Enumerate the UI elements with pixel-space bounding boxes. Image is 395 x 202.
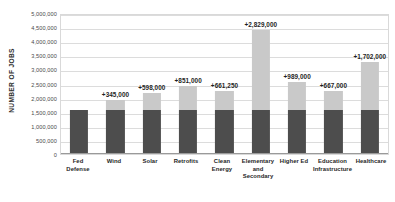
bar-slot: +667,000 (315, 15, 351, 154)
y-axis-tick-labels: 5,000,0004,500,0004,000,0003,500,0003,00… (22, 14, 60, 155)
bar-value-label: +598,000 (138, 84, 165, 91)
x-axis-category-label: Wind (96, 158, 132, 202)
bar[interactable] (252, 30, 270, 154)
x-axis-category-label: Elementary and Secondary (240, 158, 276, 202)
bar-slot: +1,702,000 (352, 15, 388, 154)
bar[interactable] (70, 110, 88, 154)
bar-slot: +661,250 (206, 15, 242, 154)
bar-segment-additional (324, 91, 342, 110)
x-axis-category-label: Retrofits (168, 158, 204, 202)
bar[interactable] (361, 62, 379, 154)
bar-value-label: +661,250 (211, 82, 238, 89)
y-axis-tick: 1,000,000 (31, 124, 57, 130)
y-axis-tick: 1,500,000 (31, 110, 57, 116)
y-axis-tick: 3,500,000 (31, 53, 57, 59)
y-axis-tick: 0 (54, 152, 57, 158)
bar[interactable] (106, 100, 124, 154)
bar[interactable] (324, 91, 342, 154)
bar[interactable] (215, 91, 233, 154)
bar-value-label: +2,829,000 (244, 21, 277, 28)
bar-segment-additional (288, 82, 306, 110)
bar[interactable] (179, 86, 197, 154)
y-axis-tick: 5,000,000 (31, 11, 57, 17)
bar-segment-base (361, 110, 379, 154)
bar-segment-base (143, 110, 161, 154)
bar-value-label: +989,000 (284, 73, 311, 80)
x-axis-category-labels: Fed DefenseWindSolarRetrofitsClean Energ… (60, 158, 389, 202)
bar-slot: +851,000 (170, 15, 206, 154)
y-axis-tick: 500,000 (36, 138, 57, 144)
jobs-bar-chart: NUMBER OF JOBS 5,000,0004,500,0004,000,0… (0, 0, 395, 202)
x-axis-category-label: Higher Ed (276, 158, 312, 202)
x-axis-baseline (61, 153, 388, 154)
bar-slot: +2,829,000 (243, 15, 279, 154)
y-axis-title-label: NUMBER OF JOBS (8, 48, 15, 113)
bar[interactable] (288, 82, 306, 154)
bar-value-label: +1,702,000 (353, 53, 386, 60)
bar-segment-base (215, 110, 233, 154)
bar[interactable] (143, 93, 161, 154)
bar-value-label: +667,000 (320, 82, 347, 89)
bar-segment-additional (143, 93, 161, 110)
bar-segment-base (324, 110, 342, 154)
bar-value-label: +345,000 (102, 91, 129, 98)
bar-slot: +598,000 (134, 15, 170, 154)
x-axis-category-label: Solar (132, 158, 168, 202)
bar-slot (61, 15, 97, 154)
bar-segment-additional (106, 100, 124, 110)
bar-segment-additional (179, 86, 197, 110)
bar-value-label: +851,000 (175, 77, 202, 84)
x-axis-category-label: Education Infrastructure (312, 158, 353, 202)
y-axis-title: NUMBER OF JOBS (0, 0, 22, 160)
x-axis-category-label: Healthcare (353, 158, 389, 202)
bar-segment-additional (361, 62, 379, 110)
plot-area: +345,000+598,000+851,000+661,250+2,829,0… (60, 14, 389, 155)
bar-segment-additional (215, 91, 233, 110)
bar-segment-base (70, 110, 88, 154)
bar-slot: +989,000 (279, 15, 315, 154)
x-axis-category-label: Clean Energy (204, 158, 240, 202)
y-axis-tick: 2,500,000 (31, 82, 57, 88)
y-axis-tick: 4,000,000 (31, 39, 57, 45)
y-axis-tick: 4,500,000 (31, 25, 57, 31)
bar-segment-base (288, 110, 306, 154)
bar-slot: +345,000 (97, 15, 133, 154)
bar-series: +345,000+598,000+851,000+661,250+2,829,0… (61, 15, 388, 154)
bar-segment-base (252, 110, 270, 154)
y-axis-tick: 3,000,000 (31, 67, 57, 73)
bar-segment-additional (252, 30, 270, 110)
x-axis-category-label: Fed Defense (60, 158, 96, 202)
y-axis-tick: 2,000,000 (31, 96, 57, 102)
bar-segment-base (179, 110, 197, 154)
bar-segment-base (106, 110, 124, 154)
